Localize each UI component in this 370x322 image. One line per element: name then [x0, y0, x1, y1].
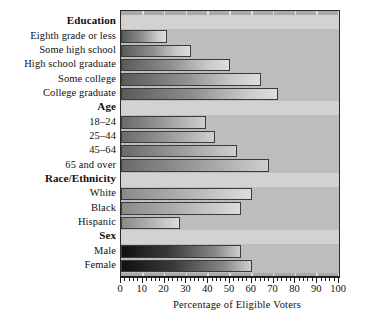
tick: [281, 277, 282, 281]
group-label: Education: [0, 15, 118, 26]
tick: [307, 277, 308, 281]
bar-row: [121, 158, 339, 172]
category-label: Black: [0, 202, 118, 213]
bar-row: [121, 115, 339, 129]
bar-row: [121, 44, 339, 58]
bar: [121, 245, 241, 257]
bar: [121, 73, 261, 85]
bar: [121, 59, 230, 71]
bar-row: [121, 72, 339, 86]
tick: [246, 277, 247, 281]
tick: [168, 277, 169, 281]
tick: [329, 277, 330, 281]
x-axis-title-text: Percentage of Eligible Voters: [173, 299, 301, 310]
category-label: High school graduate: [0, 58, 118, 69]
category-label: 18–24: [0, 116, 118, 127]
tick: [312, 277, 313, 281]
bar: [121, 45, 191, 57]
tick: [146, 277, 147, 281]
category-label: Female: [0, 259, 118, 270]
tick: [225, 277, 226, 281]
bar: [121, 202, 241, 214]
bar: [121, 131, 215, 143]
tick: [172, 277, 173, 281]
tick: [155, 277, 156, 281]
tick: [137, 277, 138, 281]
bar-chart-figure: EducationEighth grade or lessSome high s…: [0, 0, 370, 322]
plot-area: [120, 10, 340, 278]
tick: [264, 277, 265, 281]
bar: [121, 30, 167, 42]
tick: [220, 277, 221, 281]
tick: [129, 277, 130, 281]
tick: [290, 277, 291, 281]
tick: [177, 277, 178, 281]
tick: [181, 277, 182, 281]
category-label: White: [0, 187, 118, 198]
tick: [268, 277, 269, 281]
tick: [194, 277, 195, 281]
tick: [151, 277, 152, 281]
category-label: 45–64: [0, 144, 118, 155]
category-label: Hispanic: [0, 216, 118, 227]
bar: [121, 88, 278, 100]
group-band: [121, 230, 339, 244]
tick: [321, 277, 322, 281]
group-label: Race/Ethnicity: [0, 173, 118, 184]
tick: [242, 277, 243, 281]
x-axis-tick-labels: 0102030405060708090100: [0, 283, 370, 297]
category-label: College graduate: [0, 87, 118, 98]
tick: [286, 277, 287, 281]
bar-row: [121, 259, 339, 273]
group-band: [121, 173, 339, 187]
tick: [299, 277, 300, 281]
category-label: 25–44: [0, 130, 118, 141]
group-label: Age: [0, 101, 118, 112]
x-axis-title: Percentage of Eligible Voters: [0, 299, 370, 310]
bar-row: [121, 58, 339, 72]
tick: [303, 277, 304, 281]
tick: [133, 277, 134, 281]
bar: [121, 217, 180, 229]
bar: [121, 116, 206, 128]
bar: [121, 159, 269, 171]
group-band: [121, 101, 339, 115]
bar-row: [121, 87, 339, 101]
tick-label-100: 100: [323, 283, 353, 295]
bar-row: [121, 201, 339, 215]
category-label: Eighth grade or less: [0, 30, 118, 41]
bar-row: [121, 130, 339, 144]
tick: [190, 277, 191, 281]
tick: [334, 277, 335, 281]
tick: [159, 277, 160, 281]
category-label: 65 and over: [0, 159, 118, 170]
tick: [198, 277, 199, 281]
bar-rows: [121, 11, 339, 277]
category-label: Some high school: [0, 44, 118, 55]
group-label: Sex: [0, 230, 118, 241]
tick: [255, 277, 256, 281]
group-band: [121, 15, 339, 29]
category-label: Male: [0, 245, 118, 256]
tick: [325, 277, 326, 281]
bar-row: [121, 187, 339, 201]
bar-row: [121, 216, 339, 230]
bar: [121, 145, 237, 157]
tick: [216, 277, 217, 281]
bar: [121, 188, 252, 200]
bar-row: [121, 29, 339, 43]
tick: [203, 277, 204, 281]
tick: [277, 277, 278, 281]
bar-row: [121, 144, 339, 158]
tick: [212, 277, 213, 281]
tick: [238, 277, 239, 281]
category-label: Some college: [0, 73, 118, 84]
tick: [260, 277, 261, 281]
bar-row: [121, 244, 339, 258]
tick: [233, 277, 234, 281]
bar: [121, 260, 252, 272]
tick: [124, 277, 125, 281]
